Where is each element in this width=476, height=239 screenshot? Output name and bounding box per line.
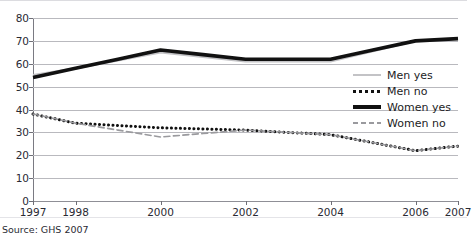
source-note: Source: GHS 2007: [2, 224, 89, 235]
legend-item-women-no[interactable]: Women no: [352, 115, 464, 131]
legend-item-label: Women no: [382, 117, 446, 130]
legend-item-women-yes[interactable]: Women yes: [352, 99, 464, 115]
y-tick-mark: [29, 87, 33, 88]
x-tick-mark: [458, 201, 459, 205]
y-tick-mark: [29, 110, 33, 111]
y-tick-mark: [29, 155, 33, 156]
x-tick-mark: [33, 201, 34, 205]
line-thick-black-icon: [352, 101, 382, 113]
y-tick-mark: [29, 41, 33, 42]
x-tick-mark: [161, 201, 162, 205]
line-dashed-gray-icon: [352, 117, 382, 129]
chart-legend: Men yesMen noWomen yesWomen no: [352, 67, 464, 131]
line-dotted-black-icon: [352, 85, 382, 97]
legend-item-men-no[interactable]: Men no: [352, 83, 464, 99]
legend-item-label: Men no: [382, 85, 427, 98]
legend-item-label: Women yes: [382, 101, 451, 114]
x-tick-mark: [331, 201, 332, 205]
x-tick-mark: [76, 201, 77, 205]
y-tick-mark: [29, 64, 33, 65]
legend-item-label: Men yes: [382, 69, 433, 82]
y-tick-mark: [29, 18, 33, 19]
y-tick-mark: [29, 132, 33, 133]
x-tick-mark: [246, 201, 247, 205]
x-tick-label: 2004: [306, 206, 356, 218]
x-tick-mark: [416, 201, 417, 205]
line-solid-light-icon: [352, 69, 382, 81]
x-tick-label: 1998: [51, 206, 101, 218]
x-tick-label: 2000: [136, 206, 186, 218]
x-tick-label: 2007: [433, 206, 476, 218]
legend-item-men-yes[interactable]: Men yes: [352, 67, 464, 83]
y-tick-mark: [29, 178, 33, 179]
x-tick-label: 2002: [221, 206, 271, 218]
